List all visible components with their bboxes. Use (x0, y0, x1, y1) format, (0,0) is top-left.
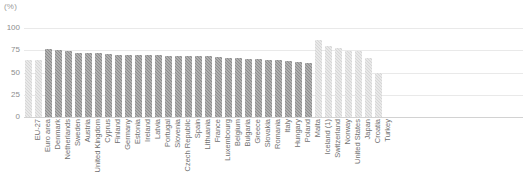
bar-slot (174, 28, 184, 117)
bar-slot (154, 28, 164, 117)
bar-slot (144, 28, 154, 117)
x-label-slot: Malta (304, 119, 314, 188)
bar-cyprus (95, 53, 102, 117)
x-label-slot: Turkey (374, 119, 384, 188)
bar-luxembourg (215, 57, 222, 117)
bar-estonia (125, 55, 132, 117)
bar-slot (74, 28, 84, 117)
bar-greece (245, 59, 252, 117)
bar-slot (44, 28, 54, 117)
bar-denmark (45, 49, 52, 117)
bar-eu-27 (25, 60, 32, 117)
x-label-slot: Austria (74, 119, 84, 188)
x-label-slot: Poland (294, 119, 304, 188)
y-axis-unit-label: (%) (4, 2, 17, 11)
bar-slot (124, 28, 134, 117)
bar-japan (355, 51, 362, 117)
bar-slot (334, 28, 344, 117)
bar-slot (274, 28, 284, 117)
bar-belgium (225, 58, 232, 117)
bar-ireland (135, 55, 142, 117)
x-label-slot: Ireland (134, 119, 144, 188)
bar-slot (94, 28, 104, 117)
x-label-slot: Norway (334, 119, 344, 188)
bar-lithuania (195, 56, 202, 117)
bar-netherlands (55, 50, 62, 117)
x-axis-category-labels: EU-27Euro areaDenmarkNetherlandsSwedenAu… (24, 119, 523, 188)
bar-bulgaria (235, 58, 242, 117)
bar-switzerland (325, 46, 332, 117)
bar-slot (224, 28, 234, 117)
bar-slovenia (165, 56, 172, 117)
y-tick-label-50: 50 (0, 69, 20, 77)
bar-portugal (155, 55, 162, 117)
bar-slot (344, 28, 354, 117)
bar-slot (354, 28, 364, 117)
x-label-slot: Euro area (34, 119, 44, 188)
bar-finland (105, 54, 112, 117)
bar-germany (115, 55, 122, 117)
x-label-slot: Spain (184, 119, 194, 188)
bar-slot (254, 28, 264, 117)
bar-slot (314, 28, 324, 117)
bar-slot (234, 28, 244, 117)
bar-turkey (375, 73, 382, 118)
x-label-slot: Croatia (364, 119, 374, 188)
x-label-slot: Belgium (224, 119, 234, 188)
x-label-slot: Czech Republic (174, 119, 184, 188)
bar-austria (75, 53, 82, 117)
y-axis-tick-labels: 0255075100 (0, 28, 22, 117)
bar-sweden (65, 51, 72, 117)
bar-slot (104, 28, 114, 117)
bar-slot (244, 28, 254, 117)
bar-slot (214, 28, 224, 117)
x-label-slot: Denmark (44, 119, 54, 188)
bar-france (205, 56, 212, 117)
x-label-slot: Estonia (124, 119, 134, 188)
y-tick-label-25: 25 (0, 91, 20, 99)
x-label-slot: United Kingdom (84, 119, 94, 188)
x-label-slot: Portugal (154, 119, 164, 188)
y-tick-label-100: 100 (0, 24, 20, 32)
bar-spain (185, 56, 192, 117)
x-label-slot: Japan (354, 119, 364, 188)
x-label-slot: Romania (264, 119, 274, 188)
bar-slot (114, 28, 124, 117)
bar-slot (324, 28, 334, 117)
x-label-slot: Luxembourg (214, 119, 224, 188)
bar-slot (264, 28, 274, 117)
bar-slot (204, 28, 214, 117)
x-label-slot: Bulgaria (234, 119, 244, 188)
bar-czech-republic (175, 56, 182, 117)
bar-norway (335, 48, 342, 117)
x-label-slot: Switzerland (324, 119, 334, 188)
bar-slot (54, 28, 64, 117)
x-label-slot: EU-27 (24, 119, 34, 188)
bar-slot (134, 28, 144, 117)
bar-united-kingdom (85, 53, 92, 117)
x-label-slot: Netherlands (54, 119, 64, 188)
x-label-slot: Greece (244, 119, 254, 188)
gridline-0 (24, 117, 523, 118)
bar-hungary (285, 61, 292, 117)
x-label-slot: Germany (114, 119, 124, 188)
bar-malta (305, 63, 312, 117)
x-label-slot: United States (344, 119, 354, 188)
bar-slot (24, 28, 34, 117)
x-label-slot: Lithuania (194, 119, 204, 188)
bar-romania (265, 60, 272, 117)
bar-slot (194, 28, 204, 117)
x-label-slot: Slovakia (254, 119, 264, 188)
bar-slovakia (255, 59, 262, 117)
x-label-slot: Slovenia (164, 119, 174, 188)
bar-slot (374, 28, 384, 117)
bar-slot (84, 28, 94, 117)
bar-slot (34, 28, 44, 117)
bar-latvia (145, 55, 152, 117)
bar-slot (284, 28, 294, 117)
bar-slot (294, 28, 304, 117)
y-tick-label-75: 75 (0, 46, 20, 54)
bar-iceland-1 (315, 40, 322, 117)
x-label-slot: Iceland (1) (314, 119, 324, 188)
x-label-slot: Sweden (64, 119, 74, 188)
